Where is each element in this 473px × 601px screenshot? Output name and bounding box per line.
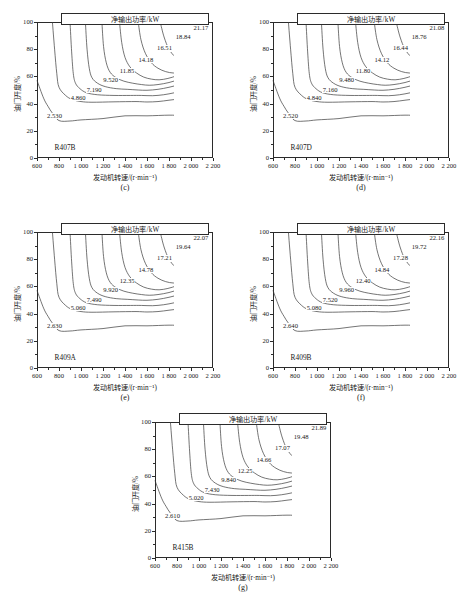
contour-label: 7.160 [322,87,338,94]
x-axis-label: 发动机转速/(r·min⁻¹) [37,172,213,182]
contour-label: 11.85 [119,68,135,75]
y-minor-tick [35,144,37,145]
y-tick-label: 0 [129,554,151,561]
y-axis-label: 油门开度/% [12,76,22,112]
x-tick-mark [155,558,156,561]
plot-title-text: 净输出功率/kW [111,14,160,24]
plot-title-box: 净输出功率/kW [297,13,445,25]
y-minor-tick [35,246,37,247]
y-minor-tick [271,144,273,145]
x-tick-mark [361,368,362,371]
y-tick-mark [34,49,37,50]
y-minor-tick [271,36,273,37]
x-minor-tick [180,158,181,160]
x-tick-mark [81,158,82,161]
contour-panel-r409b: 2.6405.0807.5209.96012.4014.8417.2819.72… [236,210,472,410]
x-tick-mark [449,368,450,371]
y-tick-mark [34,22,37,23]
y-tick-label: 0 [247,364,269,371]
x-minor-tick [298,558,299,560]
x-minor-tick [92,368,93,370]
contour-label: 12.35 [119,278,135,285]
y-tick-label: 100 [11,18,33,25]
x-minor-tick [416,368,417,370]
contour-label: 7.520 [322,297,338,304]
y-axis-label: 油门开度/% [248,286,258,322]
y-tick-label: 20 [11,337,33,344]
y-axis-label: 油门开度/% [248,76,258,112]
plot-title-box: 净输出功率/kW [297,223,445,235]
plot-title-text: 净输出功率/kW [347,14,396,24]
x-tick-mark [339,158,340,161]
x-tick-mark [59,368,60,371]
y-tick-mark [270,341,273,342]
y-tick-mark [270,259,273,260]
contour-label: 12.40 [355,278,371,285]
y-minor-tick [153,544,155,545]
panel-letter: (d) [273,183,449,192]
y-tick-label: 100 [129,418,151,425]
y-tick-mark [270,131,273,132]
y-minor-tick [153,517,155,518]
refrigerant-label: R409A [55,353,76,362]
y-axis-label: 油门开度/% [130,476,140,512]
x-tick-mark [427,158,428,161]
x-tick-mark [213,158,214,161]
y-tick-label: 20 [247,337,269,344]
contour-label: 17.21 [157,255,173,262]
y-tick-mark [34,286,37,287]
x-tick-mark [405,368,406,371]
y-tick-label: 80 [11,45,33,52]
y-tick-mark [152,422,155,423]
y-minor-tick [271,90,273,91]
y-minor-tick [35,117,37,118]
y-tick-mark [34,314,37,315]
x-tick-label: 2 200 [317,562,345,569]
x-minor-tick [202,368,203,370]
x-tick-label: 2 200 [435,372,463,379]
y-tick-mark [152,504,155,505]
x-minor-tick [188,558,189,560]
x-tick-label: 2 200 [199,162,227,169]
x-tick-mark [243,558,244,561]
y-minor-tick [35,63,37,64]
contour-label: 21.89 [311,425,327,432]
x-tick-mark [265,558,266,561]
x-tick-mark [317,158,318,161]
x-tick-mark [81,368,82,371]
contour-label: 16.51 [157,45,173,52]
contour-label: 14.66 [256,457,272,464]
contour-label: 14.12 [374,57,390,64]
x-minor-tick [306,158,307,160]
x-minor-tick [158,368,159,370]
y-tick-mark [34,131,37,132]
y-tick-mark [270,49,273,50]
contour-lines [38,233,212,367]
contour-lines [274,233,448,367]
x-axis-label: 发动机转速/(r·min⁻¹) [155,572,331,582]
x-minor-tick [114,158,115,160]
plot-title-box: 净输出功率/kW [179,413,327,425]
x-minor-tick [394,368,395,370]
y-tick-mark [34,259,37,260]
x-tick-mark [169,158,170,161]
x-tick-mark [103,368,104,371]
plot-title-box: 净输出功率/kW [61,13,209,25]
x-minor-tick [180,368,181,370]
x-minor-tick [232,558,233,560]
contour-label: 18.84 [175,34,191,41]
contour-label: 19.48 [293,434,309,441]
y-tick-mark [34,104,37,105]
y-minor-tick [271,354,273,355]
y-tick-mark [34,341,37,342]
contour-label: 4.860 [70,95,86,102]
refrigerant-label: R407D [291,143,312,152]
contour-label: 17.07 [275,445,291,452]
y-tick-mark [270,22,273,23]
plot-title-box: 净输出功率/kW [61,223,209,235]
y-tick-label: 20 [11,127,33,134]
x-minor-tick [114,368,115,370]
contour-label: 22.16 [429,235,445,242]
contour-label: 14.84 [374,267,390,274]
x-axis-label: 发动机转速/(r·min⁻¹) [37,382,213,392]
